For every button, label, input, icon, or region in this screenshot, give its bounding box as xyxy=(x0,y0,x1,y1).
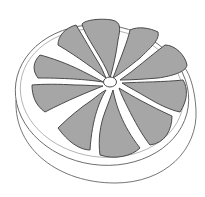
center-hole xyxy=(104,77,117,87)
grapefruit-illustration xyxy=(0,0,205,197)
